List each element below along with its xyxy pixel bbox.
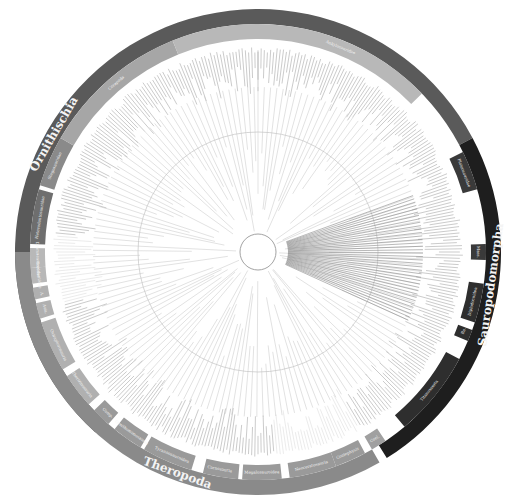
tip-label — [57, 210, 92, 217]
branch — [353, 152, 390, 180]
branch — [223, 91, 244, 186]
tip-label — [239, 425, 242, 453]
tip-label — [425, 246, 462, 247]
tip-label — [58, 258, 75, 259]
branch — [94, 259, 190, 269]
tip-label — [404, 136, 423, 149]
tip-label — [61, 205, 87, 211]
tip-label — [269, 50, 271, 83]
tip-label — [242, 438, 243, 454]
tip-label — [121, 385, 137, 403]
tip-label — [443, 239, 460, 240]
tip-label — [428, 174, 447, 182]
tip-label — [426, 215, 454, 220]
tip-label — [62, 192, 102, 204]
tip-label — [317, 425, 323, 444]
tip-label — [245, 417, 247, 455]
branch — [167, 337, 202, 390]
tip-label — [440, 284, 459, 287]
tip-label — [55, 264, 75, 265]
tip-label — [223, 51, 229, 83]
branch — [349, 197, 413, 220]
tip-label — [70, 177, 99, 188]
branch — [189, 278, 246, 402]
tip-label — [342, 77, 355, 100]
tip-label — [366, 387, 385, 411]
tip-label — [347, 402, 361, 425]
tip-label — [416, 277, 457, 283]
tip-label — [363, 407, 371, 419]
branch — [270, 90, 290, 191]
branch — [251, 346, 254, 417]
tip-label — [66, 309, 100, 321]
tip-label — [368, 385, 388, 409]
tip-label — [150, 82, 162, 101]
tip-label — [165, 401, 182, 434]
branch — [96, 219, 224, 245]
tip-label — [358, 389, 377, 415]
branch — [287, 219, 419, 246]
tip-label — [292, 53, 296, 72]
tip-label — [84, 145, 106, 158]
branch — [141, 136, 217, 211]
tip-label — [54, 246, 93, 247]
tip-label — [58, 243, 75, 244]
branch — [286, 261, 414, 304]
tip-label — [80, 154, 95, 162]
branch — [325, 125, 363, 171]
tip-label — [242, 48, 245, 86]
tip-label — [339, 73, 352, 98]
tip-label — [220, 54, 225, 82]
tip-label — [202, 422, 209, 446]
branch — [106, 189, 174, 217]
tip-label — [62, 195, 107, 208]
tip-label — [210, 53, 221, 99]
tip-label — [337, 69, 344, 84]
tip-label — [366, 374, 392, 403]
tip-label — [98, 350, 128, 373]
tip-label — [267, 52, 268, 67]
tip-label — [74, 172, 109, 187]
tip-label — [432, 181, 446, 186]
tip-label — [125, 96, 139, 112]
tip-label — [55, 272, 80, 275]
tip-label — [319, 64, 326, 83]
tip-label — [382, 105, 392, 116]
branch — [93, 244, 236, 251]
branch — [145, 132, 190, 180]
tip-label — [277, 50, 280, 81]
tip-label — [184, 65, 197, 98]
tip-label — [131, 93, 150, 117]
branch — [352, 325, 388, 353]
tip-label — [82, 151, 111, 168]
branch — [290, 142, 381, 223]
tip-label — [145, 406, 154, 419]
branch — [238, 293, 253, 415]
branch — [263, 87, 271, 186]
branch — [344, 329, 381, 362]
tip-label — [109, 359, 137, 383]
branch — [115, 270, 227, 335]
tip-label — [132, 383, 156, 414]
tip-label — [438, 295, 453, 299]
branch — [268, 271, 336, 397]
tip-label — [130, 384, 148, 406]
tip-label — [395, 122, 410, 135]
tip-label — [377, 383, 392, 400]
tip-label — [56, 267, 96, 271]
tip-label — [427, 173, 441, 179]
tip-label — [60, 272, 101, 277]
branch — [312, 256, 423, 265]
tip-label — [154, 77, 166, 97]
tip-label — [227, 55, 232, 86]
branch — [235, 89, 253, 216]
branch — [107, 260, 239, 318]
branch — [248, 87, 253, 172]
branch — [95, 256, 228, 275]
branch — [187, 103, 234, 201]
tip-label — [368, 394, 382, 412]
tip-label — [140, 89, 154, 108]
tip-label — [58, 255, 95, 256]
branch — [219, 324, 240, 413]
branch — [101, 200, 214, 237]
